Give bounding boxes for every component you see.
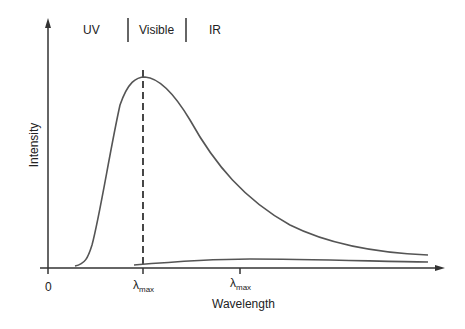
uv-region-label: UV — [83, 23, 100, 37]
x-axis-arrow-icon — [435, 265, 445, 271]
cool-body-curve — [134, 259, 428, 265]
y-axis-arrow-icon — [45, 18, 51, 28]
visible-region-label: Visible — [139, 23, 174, 37]
y-axis-label: Intensity — [27, 115, 41, 175]
hot-body-curve — [75, 77, 428, 266]
ir-region-label: IR — [209, 23, 221, 37]
lambda-max-1-label: λmax — [133, 278, 154, 294]
origin-label: 0 — [45, 280, 52, 294]
lambda-max-2-label: λmax — [230, 276, 251, 292]
x-axis-label: Wavelength — [212, 297, 275, 311]
